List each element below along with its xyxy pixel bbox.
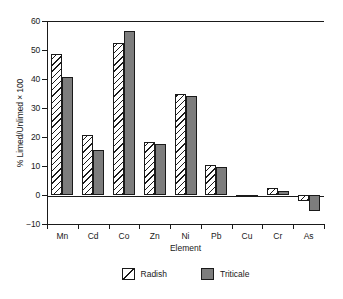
x-tick (170, 224, 171, 229)
bar-cd-radish (82, 135, 93, 195)
chart-legend: Radish Triticale (47, 268, 324, 280)
bar-ni-radish (175, 94, 186, 195)
y-tick (42, 108, 47, 109)
bar-zn-triticale (155, 144, 166, 195)
x-axis-title: Element (47, 243, 324, 253)
y-tick-label: 50 (6, 46, 40, 55)
bar-mn-triticale (62, 77, 73, 195)
y-tick (42, 195, 47, 196)
bar-cr-triticale (278, 191, 289, 195)
legend-entry-radish: Radish (122, 268, 167, 280)
x-tick (324, 224, 325, 229)
y-tick (42, 50, 47, 51)
y-tick-label: 30 (6, 104, 40, 113)
bar-co-radish (113, 43, 124, 195)
bar-cr-radish (267, 188, 278, 195)
y-tick (42, 79, 47, 80)
bar-zn-radish (144, 142, 155, 195)
bar-chart-figure: % Limed/Unlimed × 100 6050403020100−10 M… (0, 0, 343, 299)
bar-ni-triticale (186, 96, 197, 195)
x-tick (293, 224, 294, 229)
bar-as-triticale (309, 195, 320, 211)
y-tick (42, 21, 47, 22)
bar-pb-radish (205, 165, 216, 195)
y-tick-label: 10 (6, 162, 40, 171)
y-axis-title: % Limed/Unlimed × 100 (15, 43, 25, 203)
bar-pb-triticale (216, 167, 227, 195)
hatched-swatch-icon (122, 268, 135, 280)
bar-mn-radish (51, 54, 62, 195)
x-tick (139, 224, 140, 229)
bar-co-triticale (124, 31, 135, 195)
y-tick-label: 60 (6, 17, 40, 26)
x-tick (109, 224, 110, 229)
x-tick-label: As (289, 231, 329, 241)
y-tick-label: −10 (6, 220, 40, 229)
bar-as-radish (298, 195, 309, 201)
y-tick-label: 0 (6, 191, 40, 200)
y-tick (42, 137, 47, 138)
x-tick (201, 224, 202, 229)
legend-label-radish: Radish (141, 270, 167, 279)
legend-label-triticale: Triticale (220, 270, 249, 279)
x-axis-line (47, 224, 324, 225)
x-tick (78, 224, 79, 229)
zero-baseline (47, 196, 324, 197)
y-tick-label: 20 (6, 133, 40, 142)
x-tick (262, 224, 263, 229)
y-tick (42, 166, 47, 167)
x-tick (232, 224, 233, 229)
bar-cu-triticale (247, 195, 258, 197)
y-tick-label: 40 (6, 75, 40, 84)
x-tick (47, 224, 48, 229)
gray-swatch-icon (201, 268, 214, 280)
legend-entry-triticale: Triticale (201, 268, 249, 280)
bar-cd-triticale (93, 150, 104, 195)
bar-cu-radish (236, 195, 247, 197)
